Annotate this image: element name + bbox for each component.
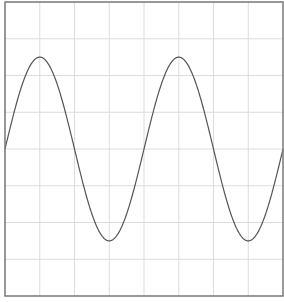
sine-wave-chart — [0, 0, 284, 302]
